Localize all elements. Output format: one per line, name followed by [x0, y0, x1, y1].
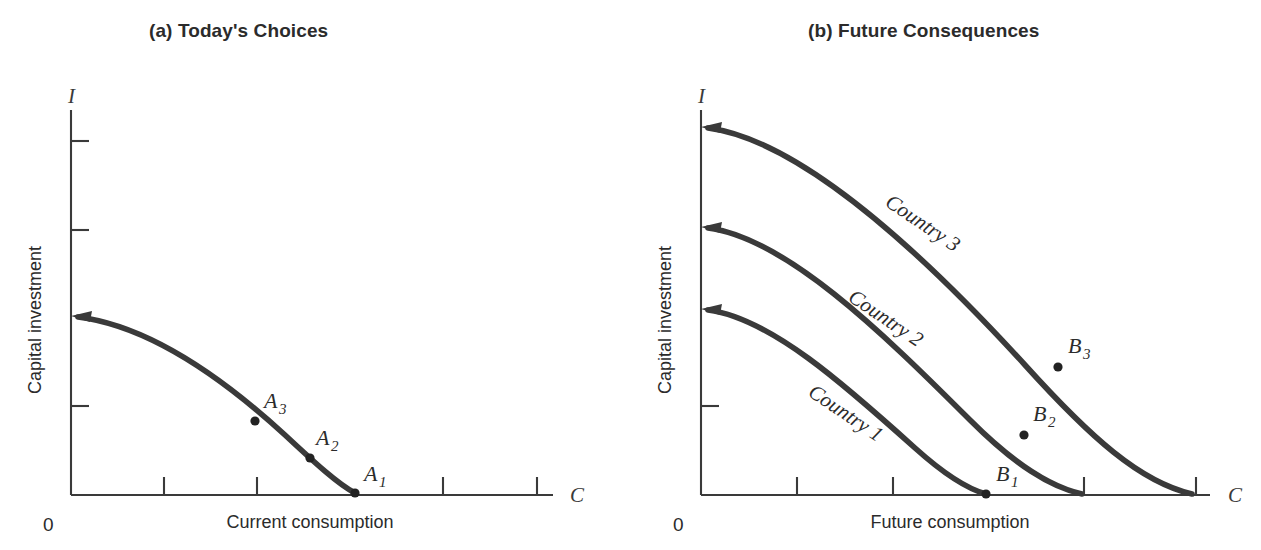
panel-b-country-2-arrowhead	[701, 222, 722, 233]
panel-a-curve-arrowhead	[71, 311, 92, 322]
panel-b-chart: Country 1 Country 2 Country 3 B 3 B 2 B …	[630, 0, 1261, 550]
panel-b-point-b1-label: B	[996, 461, 1009, 486]
panel-b-point-b2-dot	[1019, 430, 1028, 439]
panel-b-x-axis-name: Future consumption	[870, 512, 1029, 532]
panel-a-chart: A 3 A 2 A 1 I C Capital investment Curre…	[0, 0, 630, 550]
panel-b-point-b3-dot	[1053, 362, 1062, 371]
panel-a-origin-label: 0	[43, 514, 54, 535]
panel-b-point-b1-sublabel: 1	[1011, 474, 1019, 490]
panel-b-country-3-arrowhead	[701, 122, 722, 133]
panel-a-point-a1-dot	[350, 488, 359, 497]
panel-a-x-axis-symbol: C	[570, 483, 585, 507]
panel-a-point-a2-sublabel: 2	[331, 438, 339, 454]
figure-root: (a) Today's Choices (b) Future Consequen…	[0, 0, 1261, 550]
panel-b-curve-country-3	[708, 128, 1192, 494]
panel-b-y-axis-symbol: I	[697, 84, 706, 108]
panel-b-point-b2-sublabel: 2	[1048, 414, 1056, 430]
panel-a-y-axis-symbol: I	[67, 84, 76, 108]
panel-b-curve-country-2	[708, 228, 1082, 494]
panel-b-curve-label-country-3: Country 3	[881, 189, 965, 256]
panel-a-point-a1-sublabel: 1	[379, 474, 387, 490]
panel-b-point-b2-label: B	[1033, 401, 1046, 426]
panel-b-x-axis-symbol: C	[1228, 483, 1243, 507]
panel-b-point-b3-label: B	[1068, 333, 1081, 358]
panel-a-x-axis-name: Current consumption	[226, 512, 393, 532]
panel-a-point-a3-label: A	[262, 388, 278, 413]
panel-a-point-a1-label: A	[362, 461, 378, 486]
panel-a-point-a2-label: A	[314, 425, 330, 450]
panel-a-point-a3-dot	[250, 416, 259, 425]
panel-b-origin-label: 0	[673, 514, 684, 535]
panel-b-point-b3-sublabel: 3	[1082, 346, 1091, 362]
panel-a-ppf-curve	[78, 317, 355, 493]
panel-a-point-a2-dot	[305, 453, 314, 462]
panel-b-point-b1-dot	[981, 489, 990, 498]
panel-b-y-axis-name: Capital investment	[655, 246, 675, 394]
panel-a-point-a3-sublabel: 3	[278, 401, 287, 417]
panel-a-y-axis-name: Capital investment	[25, 246, 45, 394]
